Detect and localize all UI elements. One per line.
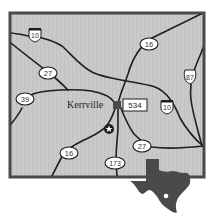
- svg-text:10: 10: [31, 32, 39, 39]
- interstate-10-east-shield: 10: [161, 100, 173, 114]
- svg-text:27: 27: [44, 69, 52, 78]
- svg-text:173: 173: [109, 160, 121, 167]
- state-16-north-shield: 16: [140, 38, 158, 50]
- interstate-10-west-shield: 10: [29, 28, 41, 42]
- svg-text:16: 16: [145, 40, 153, 49]
- city-label-kerrville: Kerrville: [67, 99, 104, 110]
- svg-text:39: 39: [21, 95, 29, 104]
- farm-road-534-label: 534: [123, 99, 147, 111]
- svg-text:16: 16: [65, 149, 73, 158]
- state-16-south-shield: 16: [60, 147, 78, 159]
- svg-text:534: 534: [128, 101, 142, 110]
- kerrville-area-map: 10 10 87 16 27 39 16 27 173 Ker: [0, 0, 215, 224]
- state-27-east-shield: 27: [133, 140, 151, 152]
- star-icon: [104, 124, 114, 134]
- svg-text:27: 27: [138, 142, 146, 151]
- svg-text:10: 10: [163, 104, 171, 111]
- state-173-shield: 173: [105, 157, 125, 169]
- state-27-west-shield: 27: [39, 67, 57, 79]
- location-dot: [164, 194, 169, 199]
- svg-text:87: 87: [186, 74, 194, 81]
- state-39-shield: 39: [16, 93, 34, 105]
- city-square-marker: [113, 101, 121, 109]
